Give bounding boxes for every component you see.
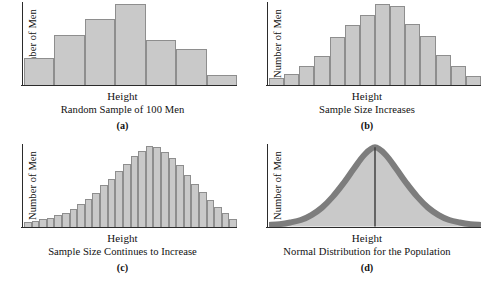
histogram-bar — [92, 193, 100, 227]
histogram-bar — [191, 184, 199, 227]
histogram-bar — [330, 37, 345, 85]
panel-d-letter: (d) — [245, 261, 489, 274]
panel-a-bars — [24, 2, 237, 85]
histogram-bar — [54, 215, 62, 227]
panel-b-caption: Sample Size Increases — [245, 103, 489, 117]
histogram-bar — [360, 15, 375, 84]
histogram-bar — [284, 74, 299, 85]
histogram-bar — [299, 66, 314, 84]
panel-d-caption: Normal Distribution for the Population — [245, 245, 489, 259]
panel-a-x-axis-line — [21, 85, 237, 86]
histogram-bar — [222, 213, 230, 226]
panel-a-letter: (a) — [0, 119, 245, 132]
panel-c-x-axis-label: Height — [0, 231, 245, 245]
histogram-bar — [229, 219, 237, 226]
histogram-bar — [115, 171, 123, 226]
histogram-bar — [375, 4, 390, 84]
histogram-bar — [269, 78, 284, 85]
panel-d: Number of Men Height Normal Distribution… — [245, 142, 489, 284]
histogram-bar — [214, 207, 222, 227]
panel-d-x-axis-line — [266, 227, 481, 228]
histogram-bar — [466, 76, 481, 84]
histogram-bar — [32, 221, 40, 227]
histogram-bar — [184, 175, 192, 226]
panel-b-letter: (b) — [245, 119, 489, 132]
panel-b-plot-area: Number of Men — [267, 0, 481, 86]
panel-d-x-axis-label: Height — [245, 231, 489, 245]
histogram-bar — [207, 200, 215, 226]
figure-grid: Number of Men Height Random Sample of 10… — [0, 0, 489, 284]
histogram-bar — [39, 219, 47, 226]
panel-c-caption: Sample Size Continues to Increase — [0, 245, 245, 259]
histogram-bar — [153, 147, 161, 226]
panel-b-x-axis-line — [266, 85, 481, 86]
panel-c-letter: (c) — [0, 261, 245, 274]
histogram-bar — [115, 4, 145, 84]
panel-c: Number of Men Height Sample Size Continu… — [0, 142, 245, 284]
panel-a-caption: Random Sample of 100 Men — [0, 103, 245, 117]
histogram-bar — [146, 40, 176, 85]
panel-c-bars — [24, 144, 237, 227]
histogram-bar — [62, 213, 70, 227]
histogram-bar — [405, 24, 420, 84]
histogram-bar — [169, 158, 177, 227]
histogram-bar — [199, 192, 207, 227]
panel-b-x-axis-label: Height — [245, 89, 489, 103]
histogram-bar — [47, 218, 55, 227]
histogram-bar — [451, 66, 466, 84]
histogram-bar — [436, 55, 451, 85]
panel-d-captions: Height Normal Distribution for the Popul… — [245, 231, 489, 274]
histogram-bar — [138, 151, 146, 227]
panel-a-captions: Height Random Sample of 100 Men (a) — [0, 89, 245, 132]
histogram-bar — [176, 49, 206, 85]
panel-c-plot-area: Number of Men — [22, 142, 237, 228]
histogram-bar — [176, 165, 184, 226]
panel-b-bars — [269, 2, 481, 85]
histogram-bar — [77, 204, 85, 226]
histogram-bar — [390, 6, 405, 84]
panel-d-plot-area: Number of Men — [267, 142, 481, 228]
histogram-bar — [70, 209, 78, 226]
histogram-bar — [161, 152, 169, 226]
histogram-bar — [24, 222, 32, 226]
panel-a-x-axis-label: Height — [0, 89, 245, 103]
histogram-bar — [146, 146, 154, 227]
panel-d-normal-curve — [269, 144, 481, 227]
histogram-bar — [54, 35, 84, 85]
histogram-bar — [314, 56, 329, 85]
panel-c-x-axis-line — [21, 227, 237, 228]
histogram-bar — [123, 164, 131, 227]
panel-b: Number of Men Height Sample Size Increas… — [245, 0, 489, 142]
panel-a-plot-area: Number of Men — [22, 0, 237, 86]
histogram-bar — [100, 185, 108, 226]
histogram-bar — [131, 156, 139, 226]
histogram-bar — [345, 25, 360, 84]
histogram-bar — [85, 19, 115, 85]
histogram-bar — [24, 58, 54, 84]
panel-a: Number of Men Height Random Sample of 10… — [0, 0, 245, 142]
histogram-bar — [85, 199, 93, 226]
histogram-bar — [108, 179, 116, 227]
panel-c-captions: Height Sample Size Continues to Increase… — [0, 231, 245, 274]
histogram-bar — [420, 36, 435, 85]
panel-b-captions: Height Sample Size Increases (b) — [245, 89, 489, 132]
histogram-bar — [207, 75, 237, 85]
